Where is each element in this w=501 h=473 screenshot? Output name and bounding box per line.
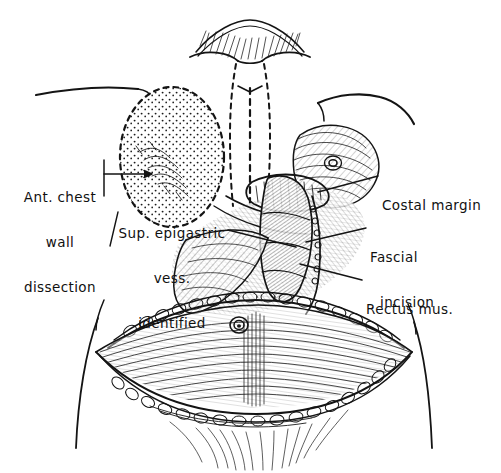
- label-costal-margin-line1: Costal margin: [382, 198, 498, 213]
- label-rectus-mus-line1: Rectus mus.: [366, 302, 486, 317]
- label-sup-epigastric-line2: vess.: [112, 271, 232, 286]
- label-fascial-incision-line1: Fascial: [370, 250, 490, 265]
- label-sup-epigastric-line1: Sup. epigastric: [112, 226, 232, 241]
- label-ant-chest-wall-line1: Ant. chest: [12, 190, 108, 205]
- label-sup-epigastric: Sup. epigastric vess. identified: [112, 196, 232, 361]
- label-ant-chest-wall-line2: wall: [12, 235, 108, 250]
- surgical-illustration-figure: Ant. chest wall dissection Sup. epigastr…: [0, 0, 501, 473]
- upper-chest-contours: [36, 88, 414, 124]
- label-ant-chest-wall: Ant. chest wall dissection: [12, 160, 108, 325]
- label-sup-epigastric-line3: identified: [112, 316, 232, 331]
- label-ant-chest-wall-line3: dissection: [12, 280, 108, 295]
- label-rectus-mus: Rectus mus.: [366, 272, 486, 347]
- garment-band: [190, 20, 310, 63]
